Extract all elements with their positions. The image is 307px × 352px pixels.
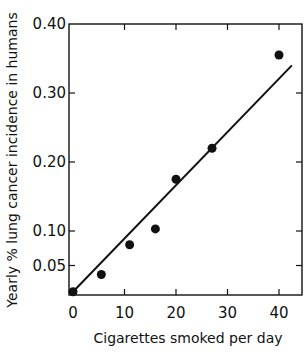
y-tick-label: 0.20 [33, 153, 66, 171]
data-point [125, 240, 134, 249]
x-axis-title: Cigarettes smoked per day [93, 330, 282, 346]
data-point [208, 144, 217, 153]
x-tick-label: 0 [68, 304, 78, 322]
data-points [69, 51, 284, 297]
data-point [275, 51, 284, 60]
x-tick-label: 30 [218, 304, 237, 322]
y-tick-label: 0.10 [33, 222, 66, 240]
y-axis-title: Yearly % lung cancer incidence in humans [4, 12, 20, 308]
regression-line [73, 65, 292, 291]
chart: 0102030400.050.100.200.300.40 Cigarettes… [0, 0, 307, 352]
data-point [172, 175, 181, 184]
plot-border [69, 24, 302, 295]
x-tick-label: 10 [115, 304, 134, 322]
plot-frame [69, 24, 302, 295]
x-tick-label: 40 [269, 304, 288, 322]
data-point [69, 287, 78, 296]
axis-ticks: 0102030400.050.100.200.300.40 [33, 15, 302, 322]
data-point [151, 224, 160, 233]
x-tick-label: 20 [166, 304, 185, 322]
y-tick-label: 0.40 [33, 15, 66, 33]
y-tick-label: 0.05 [33, 257, 66, 275]
y-tick-label: 0.30 [33, 84, 66, 102]
data-point [97, 270, 106, 279]
fit-line [73, 65, 292, 291]
